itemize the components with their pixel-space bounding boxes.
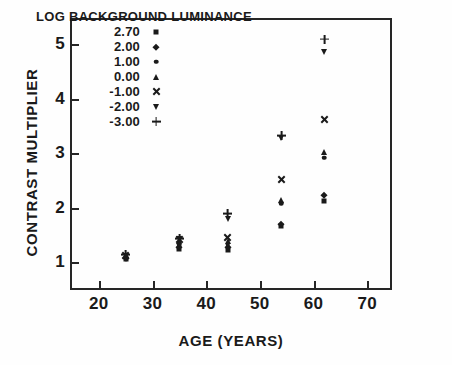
legend-item: -2.00: [36, 99, 246, 114]
x-tick: [153, 281, 155, 289]
data-point: [321, 191, 327, 197]
legend-item-label: 2.00: [98, 39, 140, 54]
marker-glyph: [154, 29, 159, 34]
data-point: [322, 199, 327, 204]
data-point: [320, 115, 329, 124]
y-tick: [71, 208, 79, 210]
data-point: [321, 149, 327, 155]
x-tick-label-30: 30: [143, 294, 163, 314]
legend-marker-triangle-down-icon: [147, 99, 165, 114]
legend-marker-triangle-up-icon: [147, 69, 165, 84]
x-tick: [314, 281, 316, 289]
y-tick-label-2: 2: [55, 198, 65, 218]
legend-rows: 2.702.001.000.00-1.00-2.00-3.00: [36, 24, 246, 129]
legend-item-label: -2.00: [98, 99, 140, 114]
legend-marker-x-icon: [147, 84, 165, 99]
x-tick: [99, 281, 101, 289]
legend-marker-plus-icon: [147, 114, 165, 129]
x-axis-title: AGE (YEARS): [70, 332, 392, 349]
x-tick: [260, 281, 262, 289]
legend-item-label: 2.70: [98, 24, 140, 39]
legend-item: 2.00: [36, 39, 246, 54]
y-tick: [71, 153, 79, 155]
data-point: [322, 155, 327, 160]
data-point: [277, 175, 286, 184]
legend-marker-square-icon: [147, 24, 165, 39]
y-tick-label-3: 3: [55, 143, 65, 163]
data-point: [320, 35, 329, 44]
legend: LOG BACKGROUND LUMINANCE 2.702.001.000.0…: [36, 9, 246, 129]
marker-glyph: [154, 59, 159, 64]
legend-item: -1.00: [36, 84, 246, 99]
legend-item-label: 0.00: [98, 69, 140, 84]
legend-item-label: 1.00: [98, 54, 140, 69]
data-point: [121, 250, 130, 259]
legend-item: 1.00: [36, 54, 246, 69]
legend-item: -3.00: [36, 114, 246, 129]
data-point: [223, 233, 232, 242]
x-tick-label-50: 50: [250, 294, 270, 314]
figure-contrast-multiplier-vs-age: 12345 203040506070 AGE (YEARS) CONTRAST …: [0, 0, 452, 365]
data-point: [175, 234, 184, 243]
x-tick-label-60: 60: [304, 294, 324, 314]
legend-item: 0.00: [36, 69, 246, 84]
marker-glyph: [152, 117, 161, 126]
marker-glyph: [153, 104, 159, 110]
marker-glyph: [152, 87, 161, 96]
data-point: [223, 209, 232, 218]
legend-marker-diamond-icon: [147, 39, 165, 54]
data-point: [277, 131, 286, 140]
marker-glyph: [153, 74, 159, 80]
legend-item-label: -3.00: [98, 114, 140, 129]
data-point: [321, 49, 327, 55]
legend-title: LOG BACKGROUND LUMINANCE: [36, 9, 246, 24]
legend-marker-circle-icon: [147, 54, 165, 69]
y-tick-label-1: 1: [55, 252, 65, 272]
x-tick: [206, 281, 208, 289]
x-tick-label-40: 40: [196, 294, 216, 314]
data-point: [278, 197, 284, 203]
marker-glyph: [153, 43, 159, 49]
x-tick-label-70: 70: [357, 294, 377, 314]
x-tick-label-20: 20: [89, 294, 109, 314]
y-tick: [71, 262, 79, 264]
legend-item-label: -1.00: [98, 84, 140, 99]
legend-item: 2.70: [36, 24, 246, 39]
x-tick: [367, 281, 369, 289]
